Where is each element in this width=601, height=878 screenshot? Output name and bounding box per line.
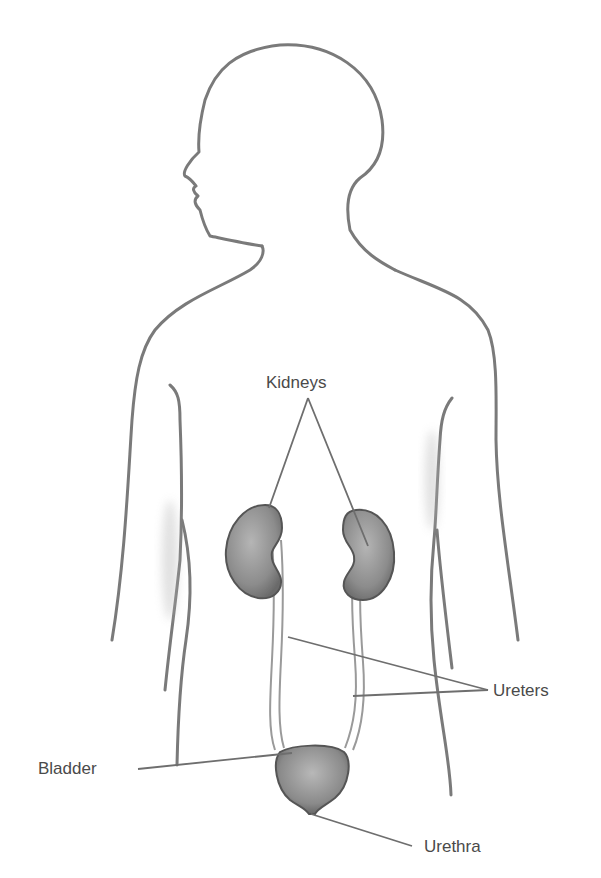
bladder (276, 746, 349, 814)
body-illustration (0, 0, 601, 878)
kidney-right (343, 510, 394, 600)
label-kidneys: Kidneys (266, 374, 326, 391)
label-bladder: Bladder (38, 760, 97, 777)
label-urethra: Urethra (424, 838, 481, 855)
urinary-system-diagram: Kidneys Ureters Bladder Urethra (0, 0, 601, 878)
label-ureters: Ureters (493, 682, 549, 699)
